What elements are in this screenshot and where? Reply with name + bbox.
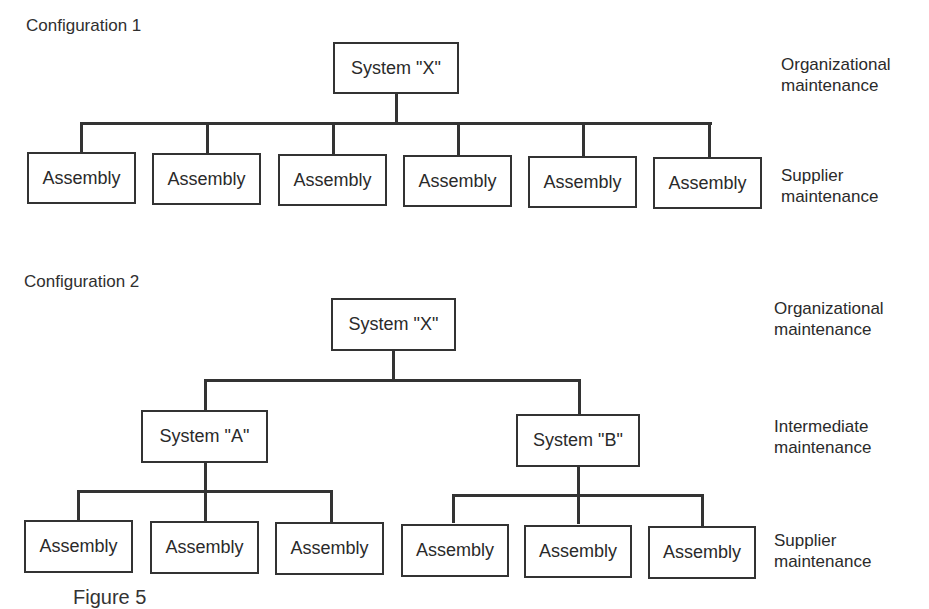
- level-line-2: maintenance: [774, 437, 871, 458]
- config-2-a-drop-1: [77, 490, 80, 521]
- config-2-a-bus: [77, 490, 333, 493]
- figure-caption-fragment: Figure 5: [73, 586, 146, 609]
- config-1-assembly-box: Assembly: [528, 156, 637, 208]
- config-1-root-connector: [395, 93, 398, 124]
- config-2-a-assembly-box: Assembly: [275, 522, 384, 575]
- config-2-a-drop-3: [330, 491, 333, 523]
- level-line-1: Supplier: [781, 165, 878, 186]
- config-1-bus: [80, 122, 712, 125]
- config-2-level-supplier: Supplier maintenance: [774, 530, 871, 572]
- config-2-system-b-box: System "B": [516, 414, 640, 467]
- config-2-title: Configuration 2: [24, 272, 139, 292]
- config-2-b-assembly-box: Assembly: [648, 526, 756, 579]
- config-2-system-x-box: System "X": [331, 298, 456, 351]
- config-2-system-a-box: System "A": [141, 410, 268, 463]
- config-2-b-drop-3: [701, 495, 704, 526]
- config-2-b-bus: [452, 494, 704, 497]
- config-2-bus: [204, 379, 581, 382]
- level-line-1: Organizational: [774, 298, 884, 319]
- config-2-b-drop-1: [452, 494, 455, 523]
- config-1-drop-3: [332, 122, 335, 154]
- config-2-drop-b: [578, 381, 581, 415]
- level-line-1: Intermediate: [774, 416, 871, 437]
- config-1-level-organizational: Organizational maintenance: [781, 54, 891, 96]
- level-line-1: Supplier: [774, 530, 871, 551]
- config-2-b-assembly-box: Assembly: [524, 525, 632, 578]
- config-1-drop-4: [457, 122, 460, 155]
- config-1-assembly-box: Assembly: [27, 152, 136, 204]
- config-1-assembly-box: Assembly: [278, 154, 387, 206]
- config-1-level-supplier: Supplier maintenance: [781, 165, 878, 207]
- config-1-drop-2: [206, 122, 209, 153]
- config-2-level-intermediate: Intermediate maintenance: [774, 416, 871, 458]
- config-1-title: Configuration 1: [26, 16, 141, 36]
- config-1-drop-1: [80, 122, 83, 153]
- config-2-drop-a: [204, 379, 207, 412]
- config-1-drop-6: [708, 122, 711, 157]
- level-line-2: maintenance: [774, 319, 884, 340]
- config-2-a-assembly-box: Assembly: [150, 521, 259, 574]
- level-line-1: Organizational: [781, 54, 891, 75]
- config-1-assembly-box: Assembly: [152, 153, 261, 205]
- config-1-drop-5: [582, 122, 585, 156]
- config-1-assembly-box: Assembly: [403, 155, 512, 207]
- config-2-level-organizational: Organizational maintenance: [774, 298, 884, 340]
- config-1-assembly-box: Assembly: [653, 157, 762, 209]
- config-2-root-connector: [392, 350, 395, 381]
- level-line-2: maintenance: [781, 75, 891, 96]
- config-1-system-x-box: System "X": [333, 42, 459, 94]
- level-line-2: maintenance: [774, 551, 871, 572]
- config-2-b-assembly-box: Assembly: [401, 524, 509, 577]
- level-line-2: maintenance: [781, 186, 878, 207]
- config-2-a-assembly-box: Assembly: [24, 520, 133, 573]
